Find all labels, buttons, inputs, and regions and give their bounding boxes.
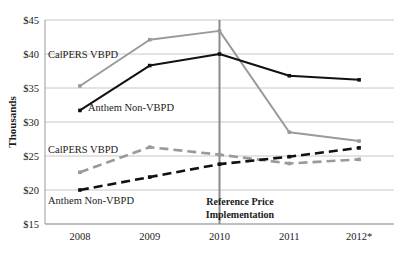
y-axis-title: Thousands bbox=[6, 96, 18, 148]
reference-price-annotation-line1: Reference Price bbox=[206, 196, 274, 207]
y-axis-tick-labels: $45$40$35$30$25$20$15 bbox=[23, 15, 39, 230]
data-point-marker bbox=[288, 162, 292, 166]
data-point-marker bbox=[78, 171, 82, 175]
y-tick-label: $35 bbox=[23, 83, 39, 94]
data-point-marker bbox=[148, 64, 152, 68]
x-tick-label: 2009 bbox=[139, 231, 160, 242]
y-tick-label: $30 bbox=[23, 117, 39, 128]
data-point-marker bbox=[218, 153, 222, 157]
data-point-marker bbox=[218, 162, 222, 166]
chart-container: $45$40$35$30$25$20$15 200820092010201120… bbox=[0, 0, 411, 254]
data-point-marker bbox=[357, 146, 361, 150]
data-point-marker bbox=[148, 145, 152, 149]
x-tick-label: 2008 bbox=[69, 231, 90, 242]
x-tick-label: 2011 bbox=[279, 231, 300, 242]
data-point-marker bbox=[288, 155, 292, 159]
x-axis-tick-labels: 20082009201020112012* bbox=[69, 231, 372, 242]
series-label-calpers-vbpd-lower: CalPERS VBPD bbox=[48, 144, 119, 155]
data-point-marker bbox=[218, 52, 222, 56]
data-point-marker bbox=[148, 38, 152, 42]
y-tick-label: $45 bbox=[23, 15, 39, 26]
data-point-marker bbox=[288, 74, 292, 78]
y-tick-label: $25 bbox=[23, 151, 39, 162]
x-tick-label: 2010 bbox=[209, 231, 230, 242]
y-tick-label: $40 bbox=[23, 49, 39, 60]
data-point-marker bbox=[218, 29, 222, 33]
line-chart: $45$40$35$30$25$20$15 200820092010201120… bbox=[0, 0, 411, 254]
series-label-anthem-non-vbpd-lower: Anthem Non-VBPD bbox=[48, 195, 134, 206]
data-point-marker bbox=[357, 158, 361, 162]
data-point-marker bbox=[357, 139, 361, 143]
y-tick-label: $15 bbox=[23, 219, 39, 230]
series-label-calpers-vbpd-upper: CalPERS VBPD bbox=[48, 49, 119, 60]
y-tick-label: $20 bbox=[23, 185, 39, 196]
reference-price-annotation-line2: Implementation bbox=[206, 209, 275, 220]
data-point-marker bbox=[78, 84, 82, 88]
data-point-marker bbox=[148, 175, 152, 179]
data-point-marker bbox=[78, 109, 82, 113]
series-label-anthem-non-vbpd-upper: Anthem Non-VBPD bbox=[88, 102, 174, 113]
data-point-marker bbox=[78, 188, 82, 192]
data-point-marker bbox=[357, 78, 361, 82]
data-point-marker bbox=[288, 130, 292, 134]
x-tick-label: 2012* bbox=[346, 231, 372, 242]
